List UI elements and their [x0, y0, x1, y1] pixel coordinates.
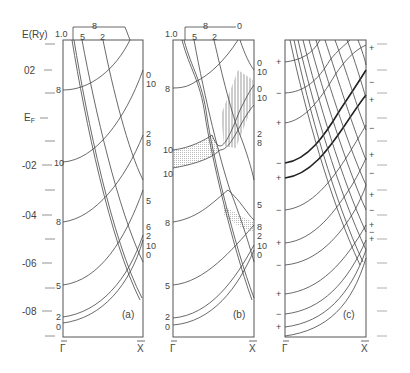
- svg-text:+: +: [276, 57, 281, 67]
- svg-text:−: −: [276, 88, 281, 98]
- x-label: X: [137, 343, 144, 354]
- svg-text:0: 0: [146, 250, 151, 260]
- panel-caption: (a): [122, 309, 134, 320]
- svg-text:2: 2: [146, 231, 151, 241]
- svg-text:10: 10: [257, 93, 267, 103]
- svg-text:8: 8: [165, 218, 170, 228]
- band-structure-figure: E(Ry) 02 EF -02 -04 -06 -08 8 1.0 5 2: [0, 0, 410, 373]
- svg-text:+: +: [369, 234, 374, 244]
- y-axis-title: E(Ry): [22, 29, 48, 40]
- svg-text:10: 10: [163, 169, 173, 179]
- right-energy-ticks: [377, 44, 387, 336]
- svg-text:5: 5: [56, 281, 61, 291]
- svg-text:5: 5: [192, 32, 197, 42]
- y-axis-ticks: 02 EF -02 -04 -06 -08: [22, 44, 55, 336]
- svg-text:5: 5: [165, 281, 170, 291]
- panel-c: + − + − + − + − + − + + − + − + − + − + …: [276, 40, 387, 354]
- svg-text:−: −: [369, 77, 374, 87]
- svg-text:+: +: [276, 322, 281, 332]
- svg-text:10: 10: [257, 67, 267, 77]
- panel-caption: (b): [233, 309, 245, 320]
- svg-text:8: 8: [146, 138, 151, 148]
- left-parity-markers: + − + − + − + − + − +: [276, 57, 281, 332]
- gamma-label: Γ: [60, 343, 66, 354]
- svg-text:+: +: [369, 190, 374, 200]
- y-tick-label: -06: [22, 258, 37, 269]
- panel-a: 8 1.0 5 2 8 10 8 5 2 0 0 10 2 8 5 6 2 10…: [54, 21, 156, 354]
- svg-text:−: −: [276, 309, 281, 319]
- svg-text:0: 0: [257, 250, 262, 260]
- svg-text:−: −: [369, 123, 374, 133]
- gamma-label: Γ: [282, 343, 288, 354]
- svg-text:−: −: [276, 158, 281, 168]
- svg-text:8: 8: [92, 21, 97, 31]
- svg-text:2: 2: [100, 32, 105, 42]
- svg-text:8: 8: [56, 85, 61, 95]
- svg-text:+: +: [369, 150, 374, 160]
- svg-text:−: −: [369, 168, 374, 178]
- svg-text:10: 10: [54, 158, 64, 168]
- svg-text:5: 5: [146, 196, 151, 206]
- svg-text:8: 8: [257, 138, 262, 148]
- svg-text:−: −: [369, 205, 374, 215]
- panel-b: 8 0 1.0 5 2 8 10 10 8 5 2 0 0 10 0: [163, 21, 267, 354]
- svg-text:8: 8: [165, 84, 170, 94]
- gamma-label: Γ: [170, 343, 176, 354]
- svg-text:1.0: 1.0: [165, 29, 178, 39]
- svg-text:+: +: [369, 95, 374, 105]
- svg-text:8: 8: [203, 21, 208, 31]
- svg-text:2: 2: [56, 312, 61, 322]
- svg-text:2: 2: [165, 312, 170, 322]
- right-parity-markers: + − + − + − + − + − +: [369, 43, 374, 244]
- x-label: X: [361, 343, 368, 354]
- svg-text:0: 0: [56, 322, 61, 332]
- y-tick-label: -08: [22, 306, 37, 317]
- fermi-level-label: EF: [24, 112, 35, 124]
- svg-text:0: 0: [165, 322, 170, 332]
- svg-text:8: 8: [56, 217, 61, 227]
- svg-text:0: 0: [237, 21, 242, 31]
- svg-text:−: −: [276, 260, 281, 270]
- svg-text:+: +: [276, 173, 281, 183]
- svg-text:+: +: [276, 289, 281, 299]
- svg-text:+: +: [276, 118, 281, 128]
- svg-text:5: 5: [257, 200, 262, 210]
- panel-caption: (c): [343, 309, 355, 320]
- svg-text:1.0: 1.0: [55, 29, 68, 39]
- svg-text:−: −: [276, 205, 281, 215]
- y-tick-label: -04: [22, 210, 37, 221]
- y-tick-label: 02: [24, 65, 36, 76]
- svg-text:5: 5: [80, 32, 85, 42]
- y-tick-label: -02: [22, 160, 37, 171]
- x-label: X: [249, 343, 256, 354]
- svg-text:+: +: [369, 43, 374, 53]
- svg-text:2: 2: [257, 231, 262, 241]
- svg-text:10: 10: [163, 145, 173, 155]
- svg-text:10: 10: [146, 79, 156, 89]
- svg-text:+: +: [276, 238, 281, 248]
